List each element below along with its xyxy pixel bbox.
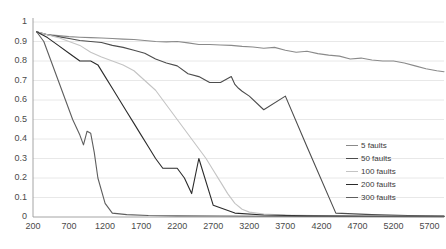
y-axis-tick-label: 0.8 bbox=[1, 56, 27, 65]
legend-item-5-faults[interactable]: 5 faults bbox=[346, 139, 444, 152]
x-axis-tick-label: 4700 bbox=[340, 222, 374, 231]
x-axis-tick-label: 1200 bbox=[88, 222, 122, 231]
legend-item-100-faults[interactable]: 100 faults bbox=[346, 165, 444, 178]
legend-line-icon bbox=[346, 145, 358, 146]
legend-line-icon bbox=[346, 184, 358, 185]
legend-item-label: 300 faults bbox=[361, 193, 396, 202]
y-axis-tick-label: 0.9 bbox=[1, 37, 27, 46]
y-axis-tick-label: 0.5 bbox=[1, 115, 27, 124]
y-axis-tick-label: 0 bbox=[1, 212, 27, 221]
chart-plot-area bbox=[0, 0, 446, 249]
x-axis-tick-label: 2700 bbox=[196, 222, 230, 231]
y-axis-tick-label: 0.4 bbox=[1, 134, 27, 143]
x-axis-tick-label: 5200 bbox=[377, 222, 411, 231]
x-axis-tick-label: 5700 bbox=[413, 222, 446, 231]
legend-line-icon bbox=[346, 197, 358, 198]
legend-item-label: 200 faults bbox=[361, 180, 396, 189]
x-axis-tick-label: 2200 bbox=[160, 222, 194, 231]
legend-line-icon bbox=[346, 158, 358, 159]
legend-item-label: 100 faults bbox=[361, 167, 396, 176]
x-axis-tick-label: 200 bbox=[16, 222, 50, 231]
legend-line-icon bbox=[346, 171, 358, 172]
legend-item-300-faults[interactable]: 300 faults bbox=[346, 191, 444, 204]
line-chart: 00.10.20.30.40.50.60.70.80.91 2007001200… bbox=[0, 0, 446, 249]
x-axis-tick-label: 3700 bbox=[268, 222, 302, 231]
y-axis-tick-label: 0.6 bbox=[1, 95, 27, 104]
x-axis-tick-label: 3200 bbox=[232, 222, 266, 231]
x-axis-tick-label: 1700 bbox=[124, 222, 158, 231]
legend-item-200-faults[interactable]: 200 faults bbox=[346, 178, 444, 191]
x-axis-tick-label: 4200 bbox=[304, 222, 338, 231]
legend-item-label: 5 faults bbox=[361, 141, 387, 150]
chart-legend: 5 faults50 faults100 faults200 faults300… bbox=[346, 139, 444, 204]
legend-item-50-faults[interactable]: 50 faults bbox=[346, 152, 444, 165]
y-axis-tick-label: 0.7 bbox=[1, 76, 27, 85]
y-axis-tick-label: 0.2 bbox=[1, 173, 27, 182]
legend-item-label: 50 faults bbox=[361, 154, 391, 163]
y-axis-tick-label: 0.1 bbox=[1, 193, 27, 202]
series-line-5-faults bbox=[37, 32, 444, 72]
y-axis-tick-label: 0.3 bbox=[1, 154, 27, 163]
x-axis-tick-label: 700 bbox=[52, 222, 86, 231]
y-axis-tick-label: 1 bbox=[1, 17, 27, 26]
